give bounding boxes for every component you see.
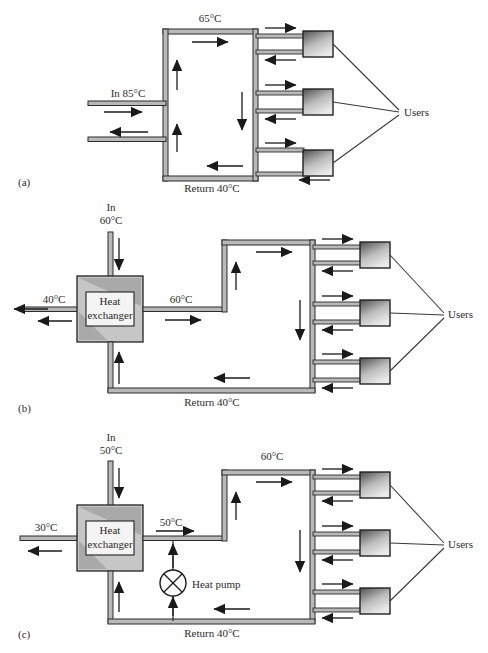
user-substation [360,358,390,384]
panel-a-return-label: Return 40°C [184,182,239,194]
panel-a-branch-group-1 [256,28,333,60]
panel-c-return-label: Return 40°C [184,627,239,639]
panel-a-distribution-loop [163,29,258,181]
panel-b-outlet-temp: 40°C [43,293,66,305]
panel-c-outlet-temp: 30°C [35,521,58,533]
user-substation [303,150,333,176]
panel-c-return-riser [108,571,113,623]
diagram-svg: (a) [0,0,488,653]
panel-b-exchanger-label-2: exchanger [87,309,133,321]
panel-b-id: (b) [18,402,31,415]
panel-a-branch-group-3 [256,143,333,180]
panel-c-branch-group-2 [313,526,390,560]
panel-b-top-supply [222,240,315,245]
panel-b-branch-group-3 [313,354,390,388]
panel-b-branch-group-2 [313,296,390,330]
panel-c-outlet-pipe [20,536,78,541]
panel-b-return-pipe [108,388,315,393]
panel-c-inlet-temp: 50°C [100,444,123,456]
user-substation [303,89,333,115]
panel-c-supply-pipe [143,536,225,541]
panel-c-heat-pump-label: Heat pump [192,578,241,590]
panel-c-exchanger-label-1: Heat [100,524,121,536]
panel-c-branch-group-1 [313,469,390,501]
panel-a-user-connectors [333,44,399,163]
user-substation [360,588,390,614]
panel-b-users-label: Users [448,308,473,320]
panel-b-return-label: Return 40°C [184,396,239,408]
panel-c-exchanger-label-2: exchanger [87,538,133,550]
panel-c-supply-temp-low: 50°C [160,516,183,528]
panel-b-return-riser [108,342,113,392]
panel-c-user-connectors [390,485,444,601]
panel-b-user-connectors [390,255,444,371]
panel-c-top-supply [222,470,315,475]
panel-c-supply-temp-high: 60°C [261,450,284,462]
panel-c-return-pipe [108,619,315,624]
panel-a-branch-group-2 [256,85,333,119]
panel-a-users-label: Users [404,106,429,118]
panel-c-inlet-title: In [106,431,116,443]
panel-b: (b) [14,201,473,415]
user-substation [360,300,390,326]
user-substation [360,472,390,498]
panel-a-supply-temp-label: 65°C [199,12,222,24]
panel-b-inlet-pipe [108,232,113,277]
panel-c-step-riser [222,470,227,541]
panel-b-inlet-title: In [106,201,116,213]
panel-a-id: (a) [18,176,31,189]
panel-a-riser-arrows [177,60,242,152]
panel-b-branch-group-1 [313,239,390,271]
panel-b-supply-temp: 60°C [170,293,193,305]
panel-c-inlet-pipe [108,461,113,507]
panel-c-branch-group-3 [313,584,390,618]
panel-b-exchanger-label-1: Heat [100,295,121,307]
user-substation [360,530,390,556]
panel-a-inlet-label: In 85°C [111,87,146,99]
figure-canvas: (a) [0,0,488,653]
panel-b-step-riser [222,240,227,312]
panel-c: (c) [18,431,473,641]
user-substation [303,31,333,57]
panel-a: (a) [18,12,429,194]
panel-c-users-label: Users [448,538,473,550]
user-substation [360,242,390,268]
heat-pump-icon [160,570,186,596]
panel-c-id: (c) [18,628,31,641]
panel-b-supply-pipe [143,307,225,312]
panel-a-inlet-pipe [88,101,166,106]
panel-b-inlet-temp: 60°C [100,214,123,226]
panel-a-outlet-pipe [88,137,166,142]
